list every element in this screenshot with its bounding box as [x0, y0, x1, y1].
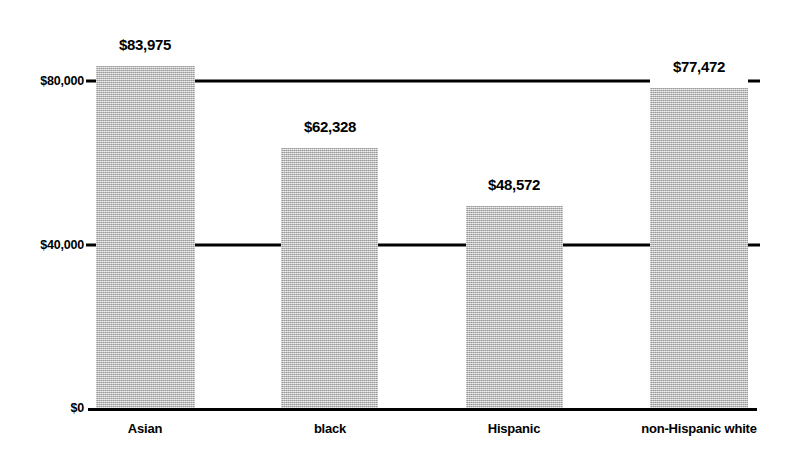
category-label-asian: Asian [128, 421, 162, 436]
bar-hispanic [466, 206, 563, 408]
gridline-80000 [195, 80, 650, 83]
ytick-label-40000: $40,000 [40, 238, 84, 252]
bar-black [281, 148, 378, 408]
right-tick-mark-40000 [748, 244, 760, 247]
left-tick-mark-40000 [86, 244, 96, 247]
category-label-black: black [314, 421, 346, 436]
bar-non-hispanic-white [650, 88, 748, 408]
category-label-hispanic: Hispanic [488, 421, 541, 436]
value-label-asian: $83,975 [119, 36, 171, 53]
bar-chart: $80,000 $40,000 $0 $83,975 $62,328 $48,5… [0, 0, 789, 454]
bar-asian [96, 66, 195, 408]
value-label-black: $62,328 [304, 118, 356, 135]
value-label-non-hispanic-white: $77,472 [673, 58, 725, 75]
ytick-label-0: $0 [70, 401, 84, 415]
category-label-non-hispanic-white: non-Hispanic white [641, 421, 757, 436]
x-axis-baseline [88, 408, 757, 411]
right-tick-mark-80000 [748, 80, 760, 83]
value-label-hispanic: $48,572 [488, 176, 540, 193]
gridline-40000-right [563, 244, 650, 247]
ytick-label-80000: $80,000 [40, 74, 84, 88]
left-tick-mark-80000 [86, 80, 96, 83]
plot-area: $80,000 $40,000 $0 $83,975 $62,328 $48,5… [0, 0, 789, 454]
